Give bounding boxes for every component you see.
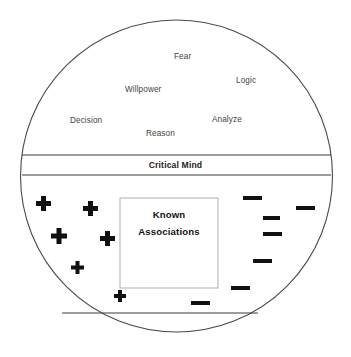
- minus-mark: [253, 259, 272, 263]
- minus-mark: [296, 206, 315, 210]
- minus-mark: [263, 232, 282, 236]
- minus-mark: [231, 286, 250, 290]
- minus-mark: [191, 301, 210, 305]
- critical-mind-label: Critical Mind: [0, 160, 351, 170]
- conscious-word-logic: Logic: [236, 76, 256, 85]
- known-associations-line-1: Known: [120, 209, 218, 220]
- conscious-word-fear: Fear: [174, 52, 191, 61]
- conscious-word-reason: Reason: [146, 129, 175, 138]
- conscious-word-willpower: Willpower: [125, 85, 161, 94]
- conscious-word-analyze: Analyze: [212, 115, 242, 124]
- minus-mark: [243, 196, 262, 200]
- known-associations-line-2: Associations: [120, 226, 218, 237]
- conscious-word-decision: Decision: [70, 116, 102, 125]
- minus-mark: [263, 216, 280, 220]
- diagram-canvas: FearLogicWillpowerDecisionAnalyzeReason …: [0, 0, 351, 357]
